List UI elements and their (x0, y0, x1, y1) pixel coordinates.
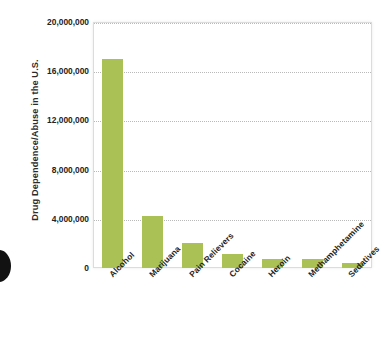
x-axis-labels-group: AlcoholMarijuanaPain RelieversCocaineHer… (93, 268, 372, 343)
y-axis-tick-label: 12,000,000 (0, 115, 89, 125)
y-axis-tick-label: 0 (0, 263, 89, 273)
y-axis-tick-label: 16,000,000 (0, 66, 89, 76)
y-axis-tick-label: 8,000,000 (0, 165, 89, 175)
bar-chart-figure: Drug Dependence/Abuse in the U.S. Alcoho… (0, 0, 388, 343)
y-axis-tick-label: 4,000,000 (0, 214, 89, 224)
y-axis-tick-label: 20,000,000 (0, 17, 89, 27)
bars-group (93, 22, 372, 268)
bar (102, 59, 123, 268)
